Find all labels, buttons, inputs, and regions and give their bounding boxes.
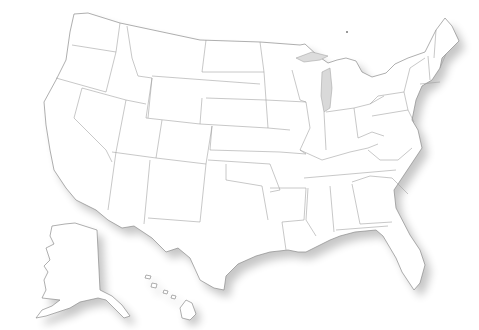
lower-48-states: [44, 13, 459, 290]
us-blank-map: [0, 0, 479, 330]
isle-royale-dot: [346, 31, 348, 33]
lake-michigan: [321, 68, 332, 112]
